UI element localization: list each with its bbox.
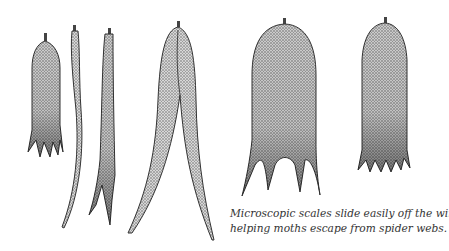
caption-line-2: helping moths escape from spider webs. [230,221,449,236]
scale-6 [358,17,410,172]
scale-3 [89,28,115,225]
scale-5 [242,18,320,196]
scale-1 [28,33,63,157]
scale-2 [62,25,82,228]
caption-line-1: Microscopic scales slide easily off the … [230,206,449,221]
scale-4 [128,21,214,240]
figure-caption: Microscopic scales slide easily off the … [230,206,449,236]
